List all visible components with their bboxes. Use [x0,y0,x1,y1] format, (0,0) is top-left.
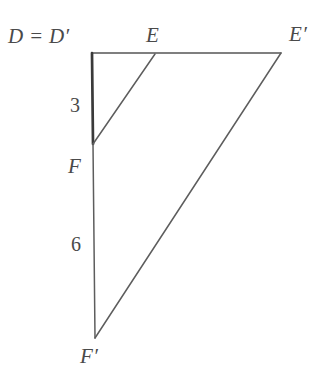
vertex-label-eprime: E′ [289,24,307,45]
vertex-label-e: E [146,25,159,46]
geometry-figure: D = D′ E E′ F F′ 3 6 [0,0,320,372]
diagram-canvas [0,0,320,372]
length-label-6: 6 [71,234,81,254]
vertex-label-d-dprime: D = D′ [8,26,69,47]
length-label-3: 3 [70,95,80,115]
segment-hypotenuse-e-to-f [93,54,155,144]
vertex-label-fprime: F′ [80,346,98,367]
segment-leg-f-to-fprime [93,144,95,338]
segment-hypotenuse-eprime-to-fprime [95,53,281,338]
segment-leg-d-to-f-bold [92,53,93,144]
vertex-label-f: F [68,156,81,177]
